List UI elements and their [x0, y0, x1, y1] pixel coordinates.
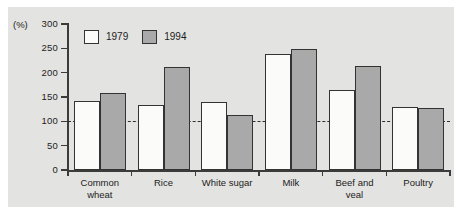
gray-square-icon — [142, 30, 157, 44]
y-tick-label-250: 250 — [18, 43, 58, 53]
bar-1979-white-sugar — [201, 102, 227, 170]
bar-1994-poultry — [418, 108, 444, 170]
y-tick-label-100: 100 — [18, 116, 58, 126]
y-tick-200 — [61, 72, 67, 73]
y-tick-label-0: 0 — [18, 165, 58, 175]
y-tick-label-150: 150 — [18, 92, 58, 102]
bar-1994-common-wheat — [100, 93, 126, 170]
category-label-3: Milk — [259, 177, 323, 189]
y-tick-100 — [61, 121, 67, 122]
legend-item-1994: 1994 — [142, 30, 186, 44]
y-tick-label-300: 300 — [18, 19, 58, 29]
y-axis-line — [67, 23, 69, 171]
chart-figure: (%) 050100150200250300 Common wheatRiceW… — [0, 0, 462, 214]
legend-label-1979: 1979 — [106, 32, 128, 42]
bar-1994-beef-and-veal — [355, 66, 381, 170]
x-tick-5 — [386, 170, 387, 176]
category-label-1: Rice — [132, 177, 196, 189]
y-tick-300 — [61, 23, 67, 24]
bar-1979-poultry — [392, 107, 418, 170]
bar-1979-milk — [265, 54, 291, 170]
y-tick-50 — [61, 145, 67, 146]
category-label-0: Common wheat — [68, 177, 132, 200]
x-tick-1 — [131, 170, 132, 176]
category-label-5: Poultry — [386, 177, 450, 189]
x-tick-2 — [195, 170, 196, 176]
y-tick-150 — [61, 96, 67, 97]
white-square-icon — [84, 30, 99, 44]
legend-label-1994: 1994 — [164, 32, 186, 42]
bar-1979-common-wheat — [74, 101, 100, 170]
chart-legend: 19791994 — [84, 30, 187, 44]
category-label-4: Beef and veal — [323, 177, 387, 200]
bar-1994-white-sugar — [227, 115, 253, 170]
x-tick-0 — [67, 170, 68, 176]
y-tick-label-50: 50 — [18, 141, 58, 151]
x-tick-end — [449, 170, 450, 176]
bar-1979-beef-and-veal — [329, 90, 355, 170]
legend-item-1979: 1979 — [84, 30, 128, 44]
x-tick-3 — [258, 170, 259, 176]
y-tick-250 — [61, 48, 67, 49]
y-tick-0 — [61, 169, 67, 170]
bar-1979-rice — [138, 105, 164, 170]
bar-1994-milk — [291, 49, 317, 170]
category-label-2: White sugar — [195, 177, 259, 189]
x-tick-4 — [322, 170, 323, 176]
y-tick-label-200: 200 — [18, 68, 58, 78]
plot-area: (%) 050100150200250300 Common wheatRiceW… — [0, 0, 462, 214]
bar-1994-rice — [164, 67, 190, 170]
